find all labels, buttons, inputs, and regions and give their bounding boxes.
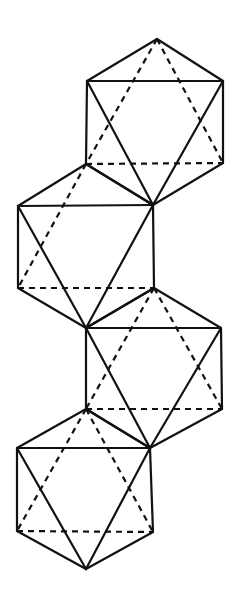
visible-edge xyxy=(157,39,223,81)
visible-edge xyxy=(86,81,87,164)
visible-edge xyxy=(150,448,153,532)
polyhedron-4 xyxy=(17,409,153,569)
visible-edge xyxy=(87,39,157,81)
hidden-edge xyxy=(17,531,153,532)
polyhedron-3 xyxy=(86,288,222,448)
visible-edge xyxy=(86,328,150,448)
visible-edge xyxy=(18,205,153,206)
visible-edge xyxy=(18,164,86,206)
visible-edge xyxy=(153,163,223,205)
polyhedra-chain-diagram xyxy=(0,0,241,610)
polyhedron-1 xyxy=(86,39,223,205)
hidden-edge xyxy=(154,288,222,409)
hidden-edge xyxy=(157,39,223,163)
visible-edge xyxy=(221,328,222,409)
polyhedron-2 xyxy=(18,164,154,328)
hidden-edge xyxy=(86,163,223,164)
visible-edge xyxy=(153,205,154,288)
visible-edge xyxy=(153,81,223,205)
visible-edge xyxy=(87,81,153,205)
hidden-edge xyxy=(86,409,153,532)
